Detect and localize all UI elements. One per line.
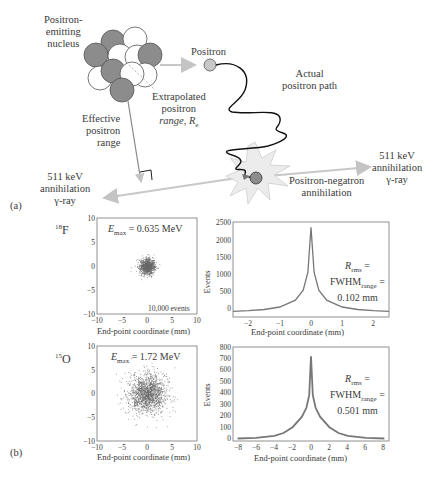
emax-label-o15: Emax = 1.72 MeV: [111, 351, 180, 367]
effective-label-2: positron: [82, 125, 120, 137]
svg-text:2: 2: [327, 443, 331, 452]
xlabel-scatter-o15: End-point coordinate (mm): [97, 451, 190, 463]
svg-text:2: 2: [371, 319, 375, 328]
svg-text:0: 0: [227, 434, 231, 443]
svg-text:Events: Events: [202, 383, 212, 406]
annihilation-label-2: annihilation: [289, 187, 364, 199]
isotope-label-f18: 18F: [55, 221, 69, 236]
svg-text:0: 0: [91, 262, 95, 271]
svg-text:2500: 2500: [216, 218, 231, 227]
svg-text:700: 700: [220, 354, 232, 363]
nucleus-label-2: emitting: [44, 26, 83, 38]
nucleus-label-1: Positron-: [44, 14, 83, 26]
extrapolated-label-1: Extrapolated: [152, 91, 206, 103]
svg-text:−5: −5: [87, 286, 95, 295]
xlabel-histogram-o15: End-point coordinate (mm): [254, 452, 347, 464]
effective-range-line: [127, 95, 141, 182]
svg-text:−2: −2: [288, 443, 296, 452]
svg-text:0: 0: [145, 316, 149, 325]
svg-text:−6: −6: [252, 443, 260, 452]
gamma-left-label-1: 511 keV: [40, 171, 90, 183]
svg-text:6: 6: [363, 443, 367, 452]
svg-text:1000: 1000: [216, 270, 231, 279]
svg-text:Events: Events: [202, 270, 212, 293]
xlabel-scatter-f18: End-point coordinate (mm): [97, 325, 190, 337]
svg-text:2000: 2000: [216, 236, 231, 245]
isotope-label-o15: 15O: [55, 350, 71, 365]
rrms-annotation-o15: Rrms = FWHMrange = 0.501 mm: [330, 373, 385, 417]
positron-particle: [204, 59, 216, 71]
actual-path-label-1: Actual: [282, 68, 337, 80]
right-angle-marker: [140, 170, 152, 180]
gamma-right-label-3: γ-ray: [372, 174, 422, 186]
annihilation-label-1: Positron-negatron: [289, 175, 364, 187]
panel-b-label: (b): [10, 447, 22, 459]
gamma-left-label-2: annihilation: [40, 183, 90, 195]
emax-label-f18: Emax = 0.635 MeV: [108, 223, 182, 239]
gamma-right-label-2: annihilation: [372, 162, 422, 174]
svg-text:800: 800: [220, 343, 232, 352]
svg-text:0: 0: [309, 443, 313, 452]
svg-text:0: 0: [227, 304, 231, 313]
svg-text:−8: −8: [234, 443, 242, 452]
svg-text:300: 300: [220, 400, 232, 409]
negatron-particle: [250, 172, 262, 184]
svg-text:500: 500: [220, 287, 232, 296]
actual-path-label-2: positron path: [282, 80, 337, 92]
svg-text:8: 8: [381, 443, 385, 452]
effective-label-3: range: [82, 137, 120, 149]
positron-label: Positron: [191, 46, 226, 58]
svg-text:5: 5: [91, 238, 95, 247]
svg-text:600: 600: [220, 365, 232, 374]
svg-text:500: 500: [220, 377, 232, 386]
svg-text:400: 400: [220, 388, 232, 397]
svg-text:−5: −5: [118, 316, 126, 325]
gamma-ray-left-arrow: [104, 176, 250, 198]
svg-text:200: 200: [220, 411, 232, 420]
effective-label-1: Effective: [82, 113, 120, 125]
svg-text:−10: −10: [91, 316, 103, 325]
svg-text:1500: 1500: [216, 253, 231, 262]
svg-text:−4: −4: [270, 443, 278, 452]
rrms-annotation-f18: Rrms = FWHMrange = 0.102 mm: [330, 260, 385, 304]
nucleus-cluster: [84, 27, 162, 102]
extrapolated-sub: e: [195, 121, 198, 129]
xlabel-histogram-f18: End-point coordinate (mm): [251, 326, 344, 338]
svg-text:5: 5: [170, 316, 174, 325]
panel-a-label: (a): [10, 200, 22, 212]
svg-text:−5: −5: [87, 413, 95, 422]
extrapolated-label-3: range, R: [159, 115, 195, 126]
svg-text:100: 100: [220, 423, 232, 432]
extrapolated-label-2: positron: [152, 103, 206, 115]
gamma-left-label-3: γ-ray: [40, 195, 90, 207]
gamma-right-label-1: 511 keV: [372, 150, 422, 162]
svg-text:5: 5: [91, 366, 95, 375]
svg-text:10: 10: [88, 214, 96, 223]
svg-text:4: 4: [345, 443, 349, 452]
nucleus-label-3: nucleus: [44, 38, 83, 50]
svg-text:10: 10: [88, 342, 96, 351]
events-count-label: 10,000 events: [148, 303, 190, 315]
svg-text:0: 0: [91, 389, 95, 398]
